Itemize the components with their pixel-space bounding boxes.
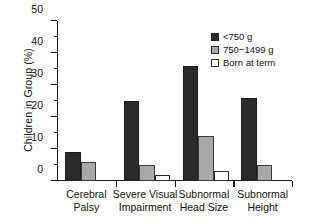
- legend-label: Born at term: [223, 57, 275, 68]
- x-axis-category-labels: CerebralPalsySevere VisualImpairmentSubn…: [57, 188, 292, 222]
- y-tick-label: 20: [31, 99, 43, 111]
- chart-legend: <750 g750−1499 gBorn at term: [211, 31, 275, 70]
- bar: [241, 98, 257, 181]
- bar: [124, 101, 140, 181]
- legend-item: Born at term: [211, 57, 275, 69]
- bar: [183, 66, 199, 181]
- y-tick-minor: [54, 164, 58, 165]
- legend-item: <750 g: [211, 31, 275, 43]
- y-tick-minor: [54, 100, 58, 101]
- bar: [214, 171, 230, 181]
- y-tick-label: 10: [31, 131, 43, 143]
- y-tick-major: 10: [51, 148, 57, 149]
- bar: [139, 165, 155, 181]
- bar: [198, 136, 214, 181]
- legend-label: <750 g: [223, 31, 252, 42]
- legend-label: 750−1499 g: [223, 44, 273, 55]
- y-tick-major: 20: [51, 116, 57, 117]
- y-tick-major: 50: [51, 20, 57, 21]
- x-axis-label-line: Height: [225, 201, 300, 214]
- x-tick-separator: [116, 181, 117, 187]
- bar: [81, 162, 97, 181]
- y-tick-minor: [54, 68, 58, 69]
- y-tick-label: 40: [31, 35, 43, 47]
- y-axis-line: [57, 21, 58, 181]
- y-tick-minor: [54, 132, 58, 133]
- legend-swatch-icon: [211, 59, 219, 67]
- legend-item: 750−1499 g: [211, 44, 275, 56]
- bar: [257, 165, 273, 181]
- x-tick-separator: [175, 181, 176, 187]
- y-tick-major: 30: [51, 84, 57, 85]
- y-tick-label: 30: [31, 67, 43, 79]
- y-tick-label: 0: [37, 163, 43, 175]
- y-tick-minor: [54, 36, 58, 37]
- y-tick-label: 50: [31, 3, 43, 15]
- x-axis-label: SubnormalHeight: [225, 188, 300, 213]
- y-tick-major: 40: [51, 52, 57, 53]
- x-tick-separator: [233, 181, 234, 187]
- x-tick-separator: [292, 181, 293, 187]
- x-axis-label-line: Subnormal: [225, 188, 300, 201]
- bar: [155, 175, 171, 181]
- bar-chart-figure: Children in Group (%) 01020304050 Cerebr…: [0, 0, 311, 224]
- legend-swatch-icon: [211, 33, 219, 41]
- y-tick-major: 0: [51, 180, 57, 181]
- bar: [65, 152, 81, 181]
- legend-swatch-icon: [211, 46, 219, 54]
